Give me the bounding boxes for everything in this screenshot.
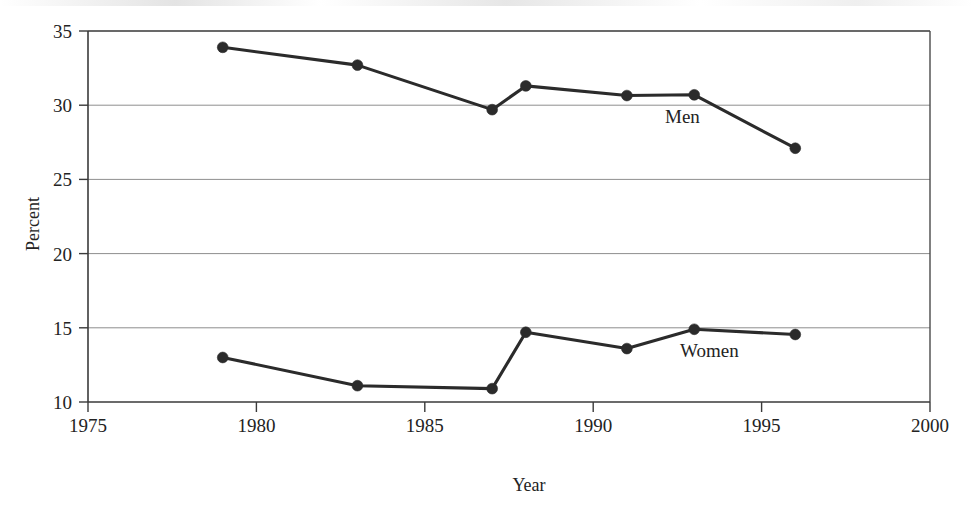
data-point-women-1988 [520, 327, 531, 338]
x-tick-labels: 197519801985199019952000 [69, 415, 949, 436]
series-label-women: Women [680, 340, 739, 361]
chart-container: 101520253035 197519801985199019952000 Me… [0, 0, 973, 517]
y-tick-labels: 101520253035 [53, 21, 72, 413]
data-point-women-1987 [487, 383, 498, 394]
x-tick-label-1975: 1975 [69, 415, 107, 436]
series-annotations: MenWomen [665, 106, 739, 361]
series-line-men [223, 47, 796, 148]
y-axis-title: Percent [23, 197, 43, 251]
x-tick-label-1990: 1990 [574, 415, 612, 436]
y-tick-label-10: 10 [53, 392, 72, 413]
data-point-men-1993 [689, 89, 700, 100]
y-tick-label-15: 15 [53, 318, 72, 339]
x-tick-label-2000: 2000 [911, 415, 949, 436]
data-point-men-1987 [487, 104, 498, 115]
data-point-men-1983 [352, 60, 363, 71]
y-axis-ticks [79, 31, 88, 402]
data-point-women-1983 [352, 380, 363, 391]
y-tick-label-35: 35 [53, 21, 72, 42]
x-tick-label-1985: 1985 [406, 415, 444, 436]
series-men [217, 42, 800, 154]
x-axis-title: Year [512, 475, 545, 495]
line-chart-canvas: 101520253035 197519801985199019952000 Me… [0, 0, 973, 517]
y-tick-label-20: 20 [53, 244, 72, 265]
data-point-women-1996 [790, 329, 801, 340]
data-point-women-1991 [621, 343, 632, 354]
data-point-men-1996 [790, 143, 801, 154]
data-point-men-1991 [621, 90, 632, 101]
plot-frame [88, 31, 930, 402]
data-point-women-1979 [217, 352, 228, 363]
y-tick-label-30: 30 [53, 95, 72, 116]
data-point-women-1993 [689, 324, 700, 335]
data-point-men-1979 [217, 42, 228, 53]
x-tick-label-1980: 1980 [237, 415, 275, 436]
x-axis-ticks [88, 402, 930, 412]
data-point-men-1988 [520, 81, 531, 92]
y-tick-label-25: 25 [53, 169, 72, 190]
x-tick-label-1995: 1995 [743, 415, 781, 436]
gridlines-group [88, 31, 930, 328]
series-label-men: Men [665, 106, 700, 127]
